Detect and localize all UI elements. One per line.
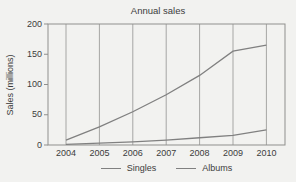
y-tick-label-0: 0 [14,140,42,151]
x-tick-label-2006: 2006 [116,148,150,159]
x-tick-label-2009: 2009 [216,148,250,159]
legend: Singles Albums [48,163,285,173]
x-tick-label-2004: 2004 [49,148,83,159]
legend-entry-singles: Singles [101,163,157,173]
x-tick-label-2007: 2007 [149,148,183,159]
albums-line-swatch [176,168,196,169]
legend-label-singles: Singles [127,163,157,173]
x-tick-label-2008: 2008 [183,148,217,159]
legend-label-albums: Albums [202,163,232,173]
y-tick-label-100: 100 [14,79,42,90]
x-tick-label-2005: 2005 [82,148,116,159]
y-tick-label-150: 150 [14,49,42,60]
legend-entry-albums: Albums [176,163,232,173]
singles-line-swatch [101,168,121,169]
annual-sales-chart: Annual sales Sales (millions) 0501001502… [0,0,296,182]
x-tick-label-2010: 2010 [249,148,283,159]
y-tick-label-50: 50 [14,109,42,120]
y-tick-label-200: 200 [14,19,42,30]
